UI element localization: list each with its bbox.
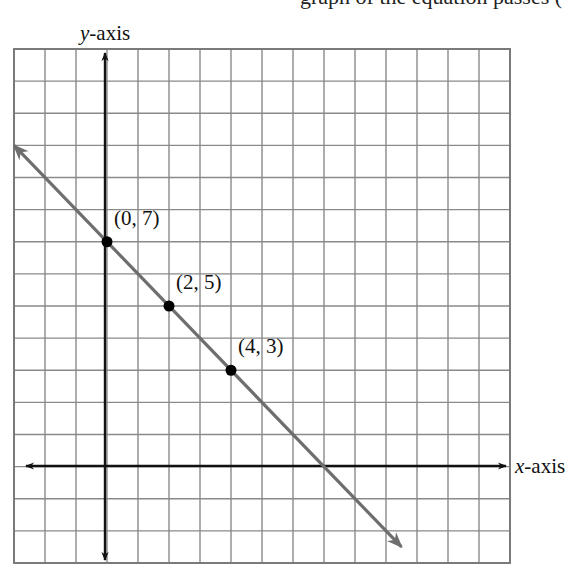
point-marker bbox=[102, 236, 113, 247]
coordinate-plane: (0, 7)(2, 5)(4, 3) y-axis x-axis bbox=[0, 0, 574, 575]
graphed-line bbox=[14, 145, 402, 547]
point-label: (4, 3) bbox=[238, 334, 284, 358]
x-axis-label: x-axis bbox=[514, 454, 565, 478]
y-axis-label: y-axis bbox=[78, 21, 130, 45]
plotted-points: (0, 7)(2, 5)(4, 3) bbox=[102, 206, 284, 376]
point-label: (2, 5) bbox=[176, 270, 222, 294]
point-marker bbox=[164, 301, 175, 312]
point-label: (0, 7) bbox=[114, 206, 160, 230]
grid-lines bbox=[14, 49, 510, 563]
point-marker bbox=[226, 365, 237, 376]
